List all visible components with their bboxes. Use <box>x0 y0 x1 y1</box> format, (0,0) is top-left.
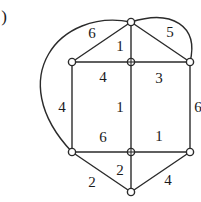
vertex-top-center <box>127 58 134 65</box>
vertex-top-left <box>68 58 75 65</box>
figure-paren-marker: ) <box>1 8 7 25</box>
vertex-bottom-right <box>186 148 193 155</box>
edge-weight-bottom-right-diagonal: 4 <box>164 173 172 188</box>
edge-weight-top-left-diagonal: 6 <box>88 26 96 41</box>
edge-weight-upper-right-square: 3 <box>155 71 163 86</box>
edge-outer-right-curve <box>131 18 192 62</box>
edge-weight-top-vertical: 1 <box>116 39 124 54</box>
edge-weight-top-right-diagonal: 5 <box>166 25 174 40</box>
vertex-bottom-center <box>127 148 134 155</box>
edge-weight-bottom-left-diagonal: 2 <box>88 175 96 190</box>
vertex-bottom-left-node-icon <box>68 148 75 155</box>
edge-weight-left-vertical: 4 <box>58 100 66 115</box>
graph-figure: 6514341661224 ) <box>0 0 201 202</box>
vertex-top-left-node-icon <box>68 58 75 65</box>
edge-weight-lower-left-square: 6 <box>99 130 107 145</box>
vertex-top <box>127 18 134 25</box>
edge-weight-lower-right-square: 1 <box>155 129 163 144</box>
vertex-bottom-right-node-icon <box>186 148 193 155</box>
edge-weight-upper-left-square: 4 <box>99 70 107 85</box>
edge-bottom-right-diagonal <box>131 152 190 192</box>
vertex-top-right-node-icon <box>186 58 193 65</box>
vertex-top-node-icon <box>127 18 134 25</box>
vertex-bottom-left <box>68 148 75 155</box>
vertex-bottom <box>127 188 134 195</box>
vertex-top-right <box>186 58 193 65</box>
vertex-bottom-node-icon <box>127 188 134 195</box>
edge-top-right-diagonal <box>131 22 190 62</box>
edge-weight-center-vertical: 1 <box>116 100 124 115</box>
edge-weight-right-vertical: 6 <box>194 100 201 115</box>
edge-weight-bottom-vertical: 2 <box>116 163 124 178</box>
